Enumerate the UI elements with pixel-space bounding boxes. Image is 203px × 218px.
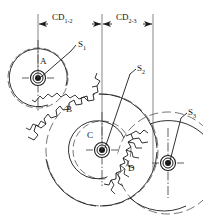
- gear-label-a: A: [40, 57, 47, 66]
- gear-label-c: C: [87, 131, 93, 140]
- shaft-label-s2: S2: [137, 64, 145, 75]
- gear-label-d: D: [128, 164, 135, 173]
- shaft-label-s1: S1: [78, 40, 86, 51]
- dimension-label-cd12: CD1-2: [52, 13, 73, 24]
- mesh-teeth-c-d: [104, 130, 148, 185]
- shaft-label-s3: S3: [188, 108, 196, 119]
- gear-label-b: B: [66, 105, 72, 114]
- dimension-label-cd23: CD2-3: [116, 13, 137, 24]
- gear-train-drawing: [0, 0, 203, 218]
- shaft-3-hub: [161, 156, 176, 171]
- gear-train-diagram: CD1-2 CD2-3 S1 S2 S3 A B C D: [0, 0, 203, 218]
- hubs: [31, 71, 176, 171]
